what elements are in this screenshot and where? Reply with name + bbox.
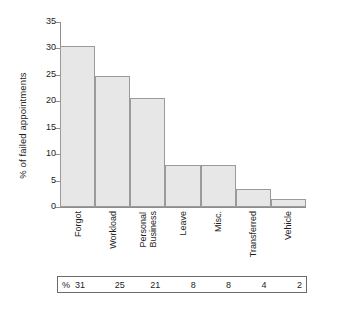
percent-symbol: % bbox=[62, 280, 70, 290]
table-cell: %31 bbox=[58, 277, 93, 292]
table-cell: 25 bbox=[93, 277, 128, 292]
y-tick-label: 35 bbox=[34, 16, 56, 26]
x-label-slot: Forgot bbox=[60, 209, 95, 271]
y-tick-label: 10 bbox=[34, 148, 56, 158]
y-tick-label: 5 bbox=[34, 175, 56, 185]
y-tick-label: 25 bbox=[34, 69, 56, 79]
table-value: 31 bbox=[75, 280, 85, 290]
table-value: 4 bbox=[262, 280, 267, 290]
plot-area: 05101520253035 bbox=[60, 22, 306, 207]
table-value: 8 bbox=[191, 280, 196, 290]
table-value: 2 bbox=[297, 280, 302, 290]
x-label-slot: Leave bbox=[165, 209, 200, 271]
y-tick-label: 30 bbox=[34, 42, 56, 52]
bar bbox=[201, 165, 236, 207]
x-axis-labels: ForgotWorkloadPersonalBusinessLeaveMisc.… bbox=[60, 209, 306, 271]
x-axis-label: PersonalBusiness bbox=[138, 211, 158, 248]
table-value: 8 bbox=[226, 280, 231, 290]
bar bbox=[95, 76, 130, 207]
bar bbox=[271, 199, 306, 207]
failed-appointments-bar-chart: % of failed appointments 05101520253035 … bbox=[0, 0, 339, 311]
table-cell: 21 bbox=[129, 277, 164, 292]
table-cell: 4 bbox=[235, 277, 270, 292]
bar bbox=[236, 189, 271, 208]
bar bbox=[165, 165, 200, 207]
x-axis-label: Forgot bbox=[73, 211, 83, 237]
x-label-slot: Vehicle bbox=[271, 209, 306, 271]
table-value: 25 bbox=[115, 280, 125, 290]
x-axis-label: Vehicle bbox=[283, 211, 293, 240]
data-value-table: %3125218842 bbox=[57, 276, 307, 293]
y-tick-label: 0 bbox=[34, 201, 56, 211]
x-axis-label: Transferred bbox=[248, 211, 258, 257]
x-label-slot: Misc. bbox=[201, 209, 236, 271]
bar bbox=[130, 98, 165, 207]
table-cell: 8 bbox=[164, 277, 199, 292]
x-label-slot: Workload bbox=[95, 209, 130, 271]
table-cell: 8 bbox=[200, 277, 235, 292]
x-label-slot: Transferred bbox=[236, 209, 271, 271]
y-tick-label: 20 bbox=[34, 95, 56, 105]
x-axis-label: Workload bbox=[108, 211, 118, 249]
x-label-slot: PersonalBusiness bbox=[130, 209, 165, 271]
bar bbox=[60, 46, 95, 207]
x-axis-label: Leave bbox=[178, 211, 188, 236]
table-cell: 2 bbox=[271, 277, 306, 292]
x-axis-line bbox=[60, 207, 306, 208]
y-axis-title: % of failed appointments bbox=[17, 51, 28, 201]
x-axis-label: Misc. bbox=[213, 211, 223, 232]
table-value: 21 bbox=[150, 280, 160, 290]
y-tick-label: 15 bbox=[34, 122, 56, 132]
